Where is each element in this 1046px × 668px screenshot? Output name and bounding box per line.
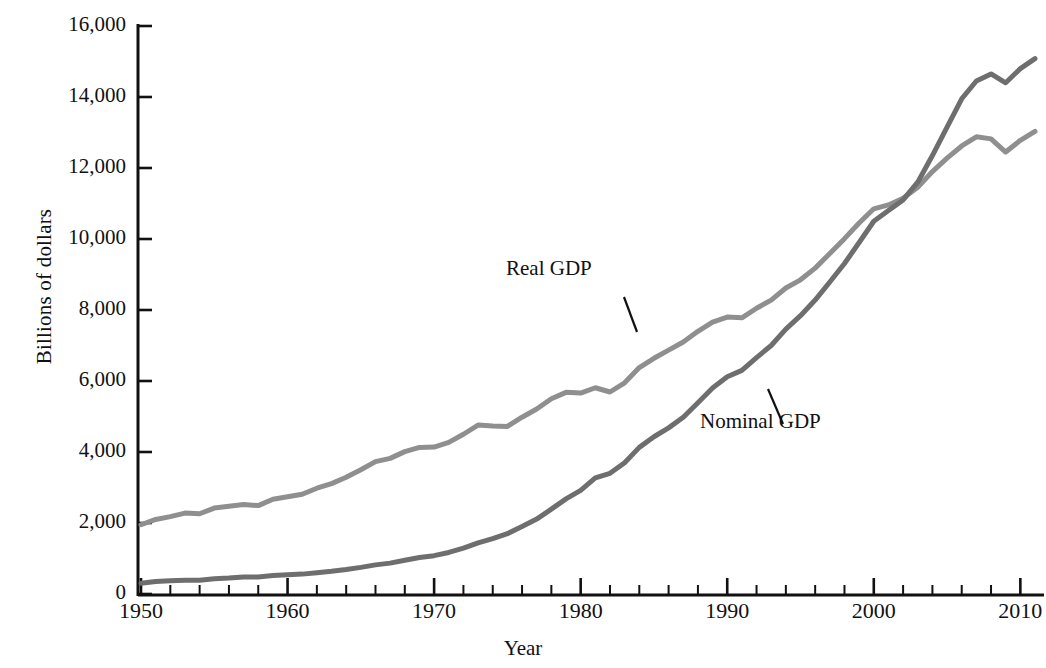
series-annotation-nominal-gdp: Nominal GDP (700, 409, 821, 434)
gdp-line-chart: 02,0004,0006,0008,00010,00012,00014,0001… (0, 0, 1046, 668)
data-series-group (141, 59, 1035, 584)
x-axis-title: Year (0, 636, 1046, 661)
y-tick-label: 4,000 (0, 438, 126, 463)
y-tick-label: 10,000 (0, 225, 126, 250)
plot-area (0, 0, 1046, 668)
series-line-nominal-gdp (141, 59, 1035, 584)
y-tick-label: 6,000 (0, 367, 126, 392)
y-tick-label: 16,000 (0, 12, 126, 37)
x-tick-label: 1960 (228, 598, 348, 624)
x-tick-label: 2000 (814, 598, 934, 624)
x-tick-label: 1970 (374, 598, 494, 624)
y-tick-label: 14,000 (0, 83, 126, 108)
real-gdp-leader-line (624, 297, 637, 332)
x-tick-label: 1950 (81, 598, 201, 624)
y-tick-label: 8,000 (0, 296, 126, 321)
series-line-real-gdp (141, 131, 1035, 524)
y-axis-ticks (138, 26, 152, 594)
y-tick-label: 12,000 (0, 154, 126, 179)
y-tick-label: 2,000 (0, 509, 126, 534)
x-axis-ticks (141, 578, 1020, 595)
x-tick-label: 1990 (667, 598, 787, 624)
series-annotation-real-gdp: Real GDP (506, 256, 592, 281)
x-tick-label: 2010 (960, 598, 1046, 624)
y-axis-title: Billions of dollars (32, 157, 57, 417)
x-tick-label: 1980 (521, 598, 641, 624)
